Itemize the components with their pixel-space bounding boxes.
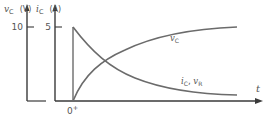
vc-curve-label: vC [170,33,179,44]
zero-plus-label: 0+ [67,104,78,116]
rc-transient-diagram: 10 vC(V) 5 iC(A) t 0+ vC iC, vR [0,0,264,117]
time-axis: t 0+ [55,83,263,116]
time-axis-label: t [256,83,261,94]
ic-axis: 5 iC(A) [36,4,62,101]
ic-vr-curve [73,27,237,95]
ic-tick-label: 5 [45,22,51,32]
ic-axis-label: iC(A) [36,4,61,16]
time-axis-arrow-icon [255,98,263,104]
vc-tick-label: 10 [12,22,24,32]
vc-curve [73,27,237,101]
ic-vr-curve-label: iC, vR [181,76,202,87]
vc-axis: 10 vC(V) [4,4,46,101]
